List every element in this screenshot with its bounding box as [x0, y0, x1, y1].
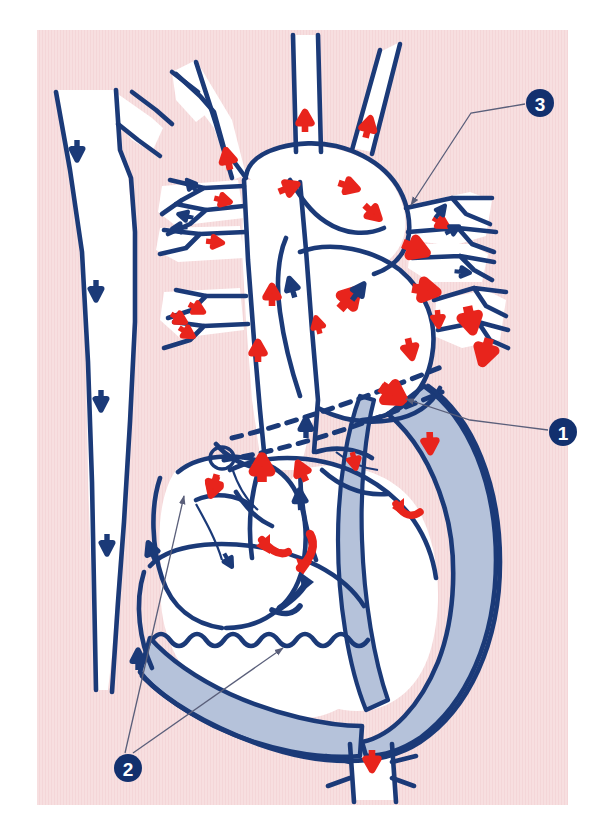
callout-2-label: 2 [123, 759, 134, 780]
carotid-left-border [293, 35, 296, 152]
callout-1-label: 1 [558, 423, 569, 444]
callout-marker-1[interactable]: 1 [549, 418, 577, 446]
carotid-right-border [318, 35, 321, 152]
heart-diagram-figure: 3 1 2 [0, 0, 603, 837]
heart-diagram-canvas: 3 1 2 [0, 0, 603, 837]
callout-3-label: 3 [535, 94, 546, 115]
callout-marker-2[interactable]: 2 [114, 754, 142, 782]
callout-marker-3[interactable]: 3 [526, 89, 554, 117]
